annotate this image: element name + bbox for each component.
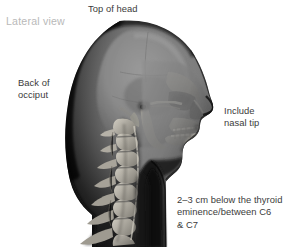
view-label: Lateral view	[6, 15, 65, 27]
anterior-neck-shadow	[135, 172, 150, 247]
annotation-top-of-head: Top of head	[88, 3, 138, 15]
annotation-include-nasal-tip: Include nasal tip	[224, 105, 259, 130]
lateral-view-figure: Lateral view Top of head Back of occiput…	[0, 0, 297, 247]
annotation-thyroid-landmark: 2–3 cm below the thyroid eminence/betwee…	[177, 194, 282, 231]
annotation-back-of-occiput: Back of occiput	[18, 77, 50, 102]
